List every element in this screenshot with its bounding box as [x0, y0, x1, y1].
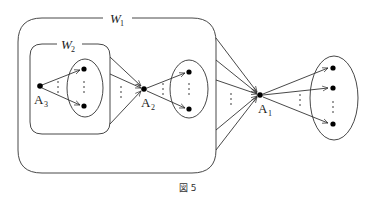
a1-subscript: 1 [268, 109, 272, 118]
w1-subscript: 1 [120, 19, 124, 28]
w2-subscript: 2 [71, 45, 75, 54]
a1-label: A [258, 101, 268, 116]
node-a1: A 1 [257, 92, 272, 118]
a2-subscript: 2 [151, 103, 155, 112]
a3-subscript: 3 [44, 100, 48, 109]
a3-label: A [34, 92, 44, 107]
edges [42, 38, 328, 150]
figure-caption: 図 5 [179, 183, 197, 193]
diagram-canvas: W 1 W 2 [0, 0, 372, 200]
a2-label: A [141, 95, 151, 110]
node-a2: A 2 [141, 86, 155, 112]
region-w1: W 1 [18, 11, 216, 173]
node-a3: A 3 [34, 83, 48, 109]
set-points [81, 65, 335, 126]
ellipsis-dots [57, 81, 334, 113]
